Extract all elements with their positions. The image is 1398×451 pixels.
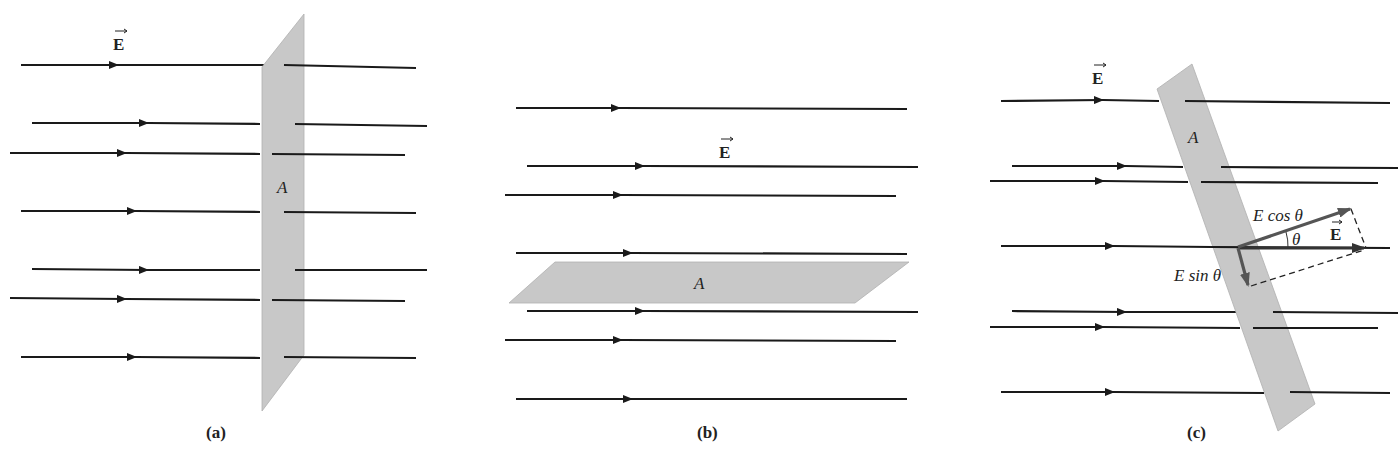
area-label: A — [693, 274, 705, 293]
theta-label: θ — [1292, 230, 1300, 249]
panel-a: E A (a) — [10, 14, 427, 442]
electric-flux-figure: E A (a) E A (b) — [0, 0, 1398, 451]
panel-caption: (c) — [1187, 423, 1206, 442]
dashed-guide — [1351, 209, 1366, 248]
field-label-b: E — [719, 137, 733, 162]
area-label: A — [276, 178, 288, 197]
field-vector-label: E — [719, 143, 730, 162]
panel-caption: (b) — [697, 423, 718, 442]
field-lines-left — [10, 65, 264, 358]
e-sin-theta-label: E sin θ — [1173, 266, 1221, 285]
field-label-c: E — [1092, 63, 1106, 88]
field-lines — [505, 108, 918, 254]
area-label: A — [1187, 128, 1199, 147]
field-vector-label: E — [113, 35, 124, 54]
e-vector-label: E — [1330, 220, 1342, 244]
svg-text:E: E — [1330, 225, 1341, 244]
panel-c: E A E cos θ θ E E sin θ (c) — [990, 63, 1398, 442]
field-vector-label: E — [1092, 69, 1103, 88]
field-lines-below — [505, 311, 918, 399]
panel-caption: (a) — [206, 423, 226, 442]
field-label-a: E — [113, 29, 127, 54]
area-plate — [509, 262, 909, 303]
angle-arc — [1286, 232, 1288, 248]
panel-b: E A (b) — [505, 108, 918, 442]
e-cos-theta-label: E cos θ — [1252, 206, 1303, 225]
